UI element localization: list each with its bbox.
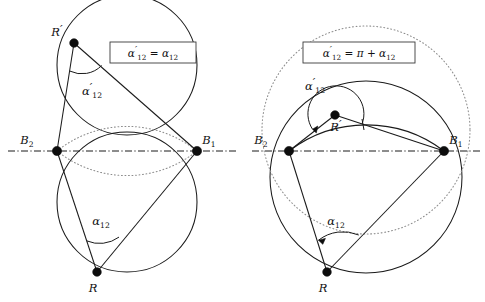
panel-left: R′ B2 B1 R α′12 α12 α′12 = α12 <box>8 0 236 295</box>
chord-rprime-b2-left <box>57 43 74 151</box>
angle-arc-r-left <box>87 237 120 243</box>
point-rprime-right <box>331 111 340 120</box>
point-b2-right <box>284 146 293 155</box>
point-b1-right <box>439 146 448 155</box>
label-point-rprime-right: R′ <box>329 117 342 134</box>
label-point-b1-right: B1 <box>448 133 462 149</box>
main-circle-right <box>270 81 462 273</box>
chord-r-b1-right <box>327 151 444 272</box>
label-point-b2-right: B2 <box>253 133 267 149</box>
chord-rprime-b2-right <box>289 115 335 151</box>
label-point-r-right: R <box>318 281 328 295</box>
label-angle-alpha-prime-12-left: α′12 <box>82 80 102 100</box>
dotted-arc-upper-left <box>57 126 197 151</box>
point-r-right <box>323 268 332 277</box>
chord-r-b1-left <box>97 151 197 272</box>
lower-circle-left <box>57 132 197 272</box>
dotted-arc-lower-left <box>57 151 197 176</box>
label-angle-alpha-prime-12-right: α′12 <box>305 75 325 95</box>
label-point-rprime-left: R′ <box>50 22 63 39</box>
label-point-r-left: R <box>88 281 98 295</box>
label-angle-alpha-12-right: α12 <box>327 214 345 230</box>
point-b2-left <box>52 146 61 155</box>
figure-canvas: R′ B2 B1 R α′12 α12 α′12 = α12 <box>0 0 485 302</box>
angle-arc-rprime-left <box>70 66 102 74</box>
label-point-b2-left: B2 <box>19 133 33 149</box>
geometry-figure: R′ B2 B1 R α′12 α12 α′12 = α12 <box>0 0 485 302</box>
upper-circle-left <box>57 0 197 135</box>
chord-rprime-b1-right <box>335 115 444 151</box>
label-angle-alpha-12-left: α12 <box>92 214 110 230</box>
panel-right: R′ B2 B1 R α′12 α12 α′12 = π + α12 <box>252 26 481 295</box>
point-rprime-left <box>70 39 79 48</box>
point-r-left <box>93 268 102 277</box>
point-b1-left <box>192 146 201 155</box>
label-point-b1-left: B1 <box>201 133 215 149</box>
